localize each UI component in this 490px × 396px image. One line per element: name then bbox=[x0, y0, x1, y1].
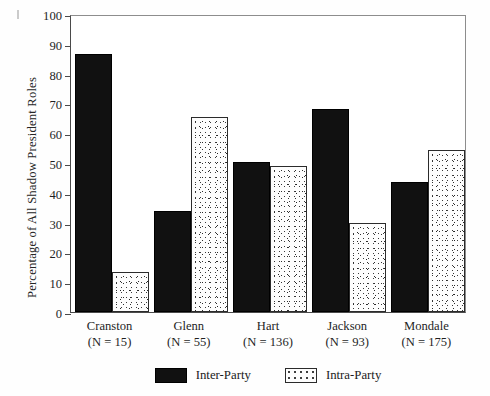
x-axis-label-n: (N = 136) bbox=[228, 334, 307, 350]
x-axis-label-name: Mondale bbox=[404, 319, 449, 333]
y-tick-label-70: 70 bbox=[22, 99, 62, 112]
x-axis-label-n: (N = 175) bbox=[387, 334, 466, 350]
bar-hart-intra-party bbox=[270, 166, 307, 312]
legend-item-inter-party: Inter-Party bbox=[155, 368, 251, 383]
y-axis-title: Percentage of All Shadow President Roles bbox=[25, 38, 40, 338]
bar-glenn-inter-party bbox=[154, 211, 191, 312]
bar-group-jackson bbox=[312, 14, 386, 312]
x-axis-label-glenn: Glenn(N = 55) bbox=[149, 318, 228, 350]
y-tick-label-30: 30 bbox=[22, 218, 62, 231]
legend-label-intra-party: Intra-Party bbox=[326, 368, 381, 383]
x-axis-label-n: (N = 93) bbox=[308, 334, 387, 350]
y-tick-label-100: 100 bbox=[22, 10, 62, 23]
bar-jackson-inter-party bbox=[312, 109, 349, 312]
chart-figure: Percentage of All Shadow President Roles… bbox=[0, 0, 490, 396]
legend-label-inter-party: Inter-Party bbox=[196, 368, 251, 383]
y-tick-label-10: 10 bbox=[22, 278, 62, 291]
bar-hart-inter-party bbox=[233, 162, 270, 312]
bar-group-mondale bbox=[391, 14, 465, 312]
x-axis-label-hart: Hart(N = 136) bbox=[228, 318, 307, 350]
bar-glenn-intra-party bbox=[191, 117, 228, 312]
x-axis-label-jackson: Jackson(N = 93) bbox=[308, 318, 387, 350]
bar-mondale-intra-party bbox=[428, 150, 465, 312]
x-axis-label-name: Cranston bbox=[87, 319, 132, 333]
bar-cranston-intra-party bbox=[112, 272, 149, 312]
y-tick-label-90: 90 bbox=[22, 40, 62, 53]
y-tick-label-20: 20 bbox=[22, 248, 62, 261]
legend-swatch-inter-party bbox=[155, 368, 187, 383]
x-axis-label-name: Hart bbox=[257, 319, 279, 333]
x-axis-label-name: Jackson bbox=[327, 319, 367, 333]
scan-artifact bbox=[17, 10, 19, 19]
legend-swatch-intra-party bbox=[285, 368, 317, 383]
bar-mondale-inter-party bbox=[391, 182, 428, 312]
x-axis-label-name: Glenn bbox=[173, 319, 204, 333]
x-axis-label-n: (N = 55) bbox=[149, 334, 228, 350]
y-tick-label-80: 80 bbox=[22, 69, 62, 82]
x-axis-label-cranston: Cranston(N = 15) bbox=[70, 318, 149, 350]
y-tick-label-40: 40 bbox=[22, 189, 62, 202]
chart-legend: Inter-Party Intra-Party bbox=[70, 362, 466, 388]
y-tick-label-50: 50 bbox=[22, 159, 62, 172]
legend-item-intra-party: Intra-Party bbox=[285, 368, 381, 383]
bar-group-glenn bbox=[154, 14, 228, 312]
x-axis-label-n: (N = 15) bbox=[70, 334, 149, 350]
x-axis-label-mondale: Mondale(N = 175) bbox=[387, 318, 466, 350]
y-tick-label-0: 0 bbox=[22, 308, 62, 321]
bar-group-hart bbox=[233, 14, 307, 312]
plot-area: 0102030405060708090100 bbox=[70, 15, 466, 313]
x-axis-labels: Cranston(N = 15)Glenn(N = 55)Hart(N = 13… bbox=[70, 318, 466, 360]
y-tick-0 bbox=[65, 314, 71, 315]
bar-group-cranston bbox=[75, 14, 149, 312]
bar-cranston-inter-party bbox=[75, 54, 112, 312]
bar-jackson-intra-party bbox=[349, 223, 386, 312]
y-tick-label-60: 60 bbox=[22, 129, 62, 142]
bars-layer bbox=[71, 16, 465, 312]
